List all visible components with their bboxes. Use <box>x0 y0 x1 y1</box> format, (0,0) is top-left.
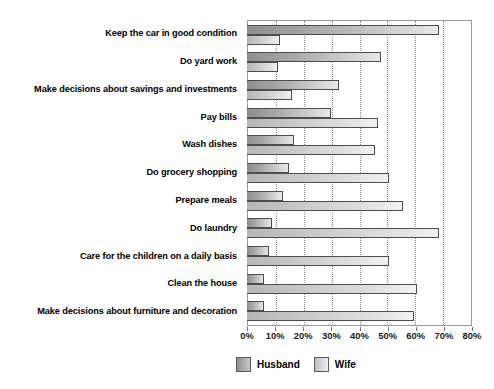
category-label: Care for the children on a daily basis <box>0 243 243 271</box>
household-tasks-bar-chart: Keep the car in good conditionDo yard wo… <box>0 0 494 389</box>
category-label: Do laundry <box>0 215 243 243</box>
x-axis-tick-label: 30% <box>322 330 341 341</box>
bar-husband <box>247 274 264 284</box>
bar-wife <box>247 311 414 321</box>
bar-husband <box>247 163 289 173</box>
x-axis-tick-label: 40% <box>350 330 369 341</box>
x-axis-tick-label: 80% <box>463 330 482 341</box>
x-axis-tick-labels: 0%10%20%30%40%50%60%70%80% <box>247 330 472 346</box>
category-label: Do grocery shopping <box>0 159 243 187</box>
bar-row <box>248 21 471 49</box>
bar-row <box>248 242 471 270</box>
x-axis-tick-label: 0% <box>240 330 254 341</box>
plot-area <box>247 20 472 326</box>
legend-label: Wife <box>335 359 356 370</box>
x-axis-tick-label: 20% <box>294 330 313 341</box>
legend-label: Husband <box>257 359 300 370</box>
bar-wife <box>247 145 375 155</box>
bar-row <box>248 104 471 132</box>
bar-wife <box>247 118 378 128</box>
x-axis-tick-label: 50% <box>378 330 397 341</box>
bar-wife <box>247 62 278 72</box>
category-label: Prepare meals <box>0 187 243 215</box>
bar-husband <box>247 135 294 145</box>
legend-item-husband[interactable]: Husband <box>236 357 300 372</box>
bar-wife <box>247 284 417 294</box>
bar-wife <box>247 201 403 211</box>
bar-husband <box>247 52 381 62</box>
bar-row <box>248 214 471 242</box>
legend-swatch-husband <box>236 357 251 372</box>
bar-husband <box>247 108 331 118</box>
bar-row <box>248 297 471 325</box>
bar-husband <box>247 246 269 256</box>
bar-husband <box>247 218 272 228</box>
x-axis-tick-label: 70% <box>434 330 453 341</box>
bar-husband <box>247 301 264 311</box>
bar-row <box>248 76 471 104</box>
category-label: Make decisions about savings and investm… <box>0 76 243 104</box>
category-label: Wash dishes <box>0 131 243 159</box>
bar-wife <box>247 228 439 238</box>
category-label: Pay bills <box>0 103 243 131</box>
bar-row <box>248 159 471 187</box>
category-label: Make decisions about furniture and decor… <box>0 298 243 326</box>
bar-husband <box>247 80 339 90</box>
category-label: Clean the house <box>0 270 243 298</box>
x-axis-tick-label: 60% <box>406 330 425 341</box>
chart-legend: HusbandWife <box>236 357 356 372</box>
category-label: Keep the car in good condition <box>0 20 243 48</box>
legend-item-wife[interactable]: Wife <box>314 357 356 372</box>
bar-wife <box>247 173 389 183</box>
bar-husband <box>247 191 283 201</box>
bar-wife <box>247 90 292 100</box>
bar-rows <box>248 21 471 325</box>
bar-husband <box>247 25 439 35</box>
bar-row <box>248 49 471 77</box>
category-axis-labels: Keep the car in good conditionDo yard wo… <box>0 20 243 326</box>
category-label: Do yard work <box>0 48 243 76</box>
bar-row <box>248 132 471 160</box>
bar-row <box>248 187 471 215</box>
legend-swatch-wife <box>314 357 329 372</box>
bar-wife <box>247 35 280 45</box>
x-axis-tick-label: 10% <box>266 330 285 341</box>
bar-row <box>248 270 471 298</box>
bar-wife <box>247 256 389 266</box>
